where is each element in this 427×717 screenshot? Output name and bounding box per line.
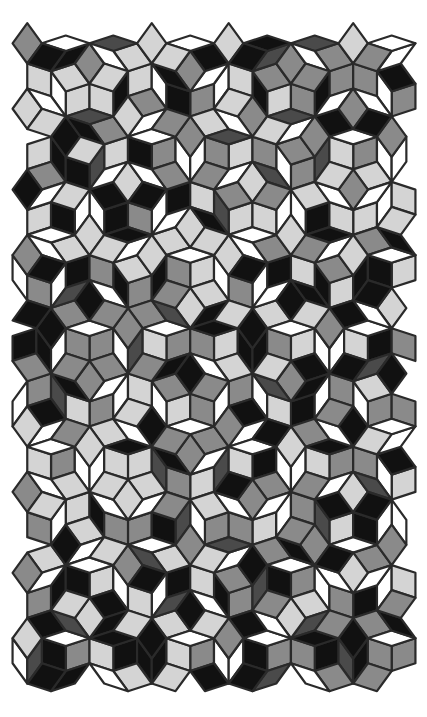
rhombus-tiles [13, 23, 416, 691]
penrose-tiling-canvas: Penrose rhombus tiling (P3), grayscale [0, 0, 427, 717]
thick-rhombus-tile [392, 328, 416, 361]
penrose-tiling-svg [0, 0, 427, 717]
